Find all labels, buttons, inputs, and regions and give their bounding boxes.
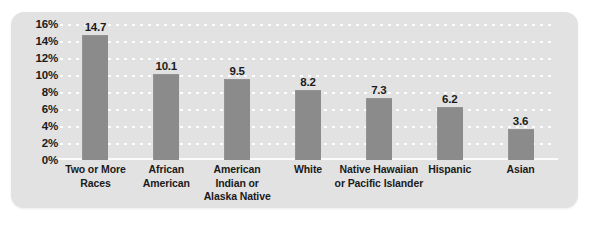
category-label-line: Indian or xyxy=(190,177,285,191)
category-label-line: or Pacific Islander xyxy=(331,177,426,191)
bar-value-label: 9.5 xyxy=(229,65,244,77)
bar xyxy=(153,74,179,160)
category-label: Asian xyxy=(473,163,568,177)
bar-value-label: 6.2 xyxy=(442,93,457,105)
y-axis-tick-16pct: 16% xyxy=(14,19,58,30)
bar xyxy=(366,98,392,160)
bar xyxy=(508,129,534,160)
bar-value-label: 3.6 xyxy=(513,115,528,127)
y-axis-tick-4pct: 4% xyxy=(14,121,58,132)
bar-group: 9.5 xyxy=(202,24,273,160)
bar-group: 14.7 xyxy=(60,24,131,160)
bar-value-label: 14.7 xyxy=(85,21,107,33)
bar-chart-figure: 16%14%12%10%8%6%4%2%0% 14.710.19.58.27.3… xyxy=(0,0,591,230)
bar-group: 10.1 xyxy=(131,24,202,160)
y-axis-tick-14pct: 14% xyxy=(14,36,58,47)
bar-group: 6.2 xyxy=(414,24,485,160)
bar-value-label: 8.2 xyxy=(300,76,315,88)
bar xyxy=(82,35,108,160)
bar-value-label: 10.1 xyxy=(155,60,177,72)
bar-value-label: 7.3 xyxy=(371,84,386,96)
y-axis-tick-10pct: 10% xyxy=(14,70,58,81)
bar xyxy=(295,90,321,160)
y-axis-tick-6pct: 6% xyxy=(14,104,58,115)
bar xyxy=(224,79,250,160)
bar-group: 7.3 xyxy=(343,24,414,160)
y-axis-tick-2pct: 2% xyxy=(14,138,58,149)
y-axis-tick-12pct: 12% xyxy=(14,53,58,64)
y-axis-tick-labels: 16%14%12%10%8%6%4%2%0% xyxy=(14,18,58,166)
y-axis-tick-8pct: 8% xyxy=(14,87,58,98)
category-labels-layer: Two or MoreRacesAfricanAmericanAmericanI… xyxy=(60,163,556,207)
bars-layer: 14.710.19.58.27.36.23.6 xyxy=(60,24,556,160)
bar xyxy=(437,107,463,160)
bar-group: 8.2 xyxy=(273,24,344,160)
category-label-line: Alaska Native xyxy=(190,190,285,204)
category-label-line: Asian xyxy=(473,163,568,177)
bar-group: 3.6 xyxy=(485,24,556,160)
